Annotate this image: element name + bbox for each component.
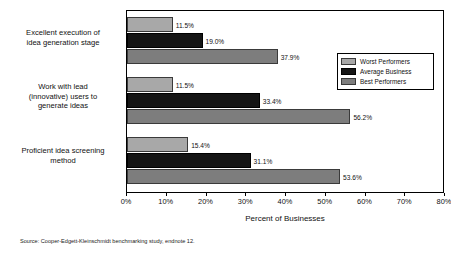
bar-row: 33.4% [127,93,443,108]
bar-worst[interactable] [127,17,173,32]
bar-best[interactable] [127,169,340,184]
category-label-0-line-1: idea generation stage [2,38,124,48]
x-tick-label: 0% [121,197,132,206]
x-tick-mark [245,193,246,196]
bar-average[interactable] [127,153,251,168]
source-note: Source: Cooper-Edgett-Kleinschmidt bench… [20,238,195,244]
x-tick-label: 20% [198,197,213,206]
category-label-1: Work with lead (innovative) users to gen… [2,82,124,111]
x-tick-label: 80% [437,197,451,206]
legend-item-best[interactable]: Best Performers [341,77,430,86]
x-tick-label: 10% [158,197,173,206]
bar-value-label: 19.0% [203,37,225,44]
bar-value-label: 56.2% [350,113,372,120]
category-label-0: Excellent execution of idea generation s… [2,28,124,47]
x-tick-mark [404,193,405,196]
legend-swatch-best [341,78,356,85]
chart-figure: Excellent execution of idea generation s… [0,0,451,261]
bar-average[interactable] [127,33,203,48]
x-tick-mark [365,193,366,196]
bar-best[interactable] [127,49,278,64]
legend-swatch-average [341,68,356,75]
x-tick-mark [325,193,326,196]
x-tick-mark [206,193,207,196]
legend-item-worst[interactable]: Worst Performers [341,57,430,66]
bar-value-label: 33.4% [260,97,282,104]
category-label-1-line-1: (innovative) users to [2,92,124,102]
x-tick-mark [126,193,127,196]
bar-value-label: 15.4% [188,141,210,148]
plot-area: 11.5%19.0%37.9%11.5%33.4%56.2%15.4%31.1%… [126,10,444,193]
bar-value-label: 11.5% [173,21,194,28]
bar-row: 19.0% [127,33,443,48]
category-label-2-line-1: method [2,156,124,166]
legend-swatch-worst [341,58,356,65]
bar-value-label: 11.5% [173,81,194,88]
x-tick-label: 70% [397,197,412,206]
bar-row: 53.6% [127,169,443,184]
category-label-1-line-0: Work with lead [2,82,124,92]
x-axis: 0%10%20%30%40%50%60%70%80% [126,193,444,213]
chart-legend: Worst PerformersAverage BusinessBest Per… [337,53,434,90]
legend-label: Worst Performers [360,58,410,65]
category-axis-labels: Excellent execution of idea generation s… [2,10,124,193]
x-tick-mark [285,193,286,196]
bar-row: 15.4% [127,137,443,152]
bar-worst[interactable] [127,137,188,152]
x-tick-label: 30% [238,197,253,206]
bar-value-label: 37.9% [278,53,300,60]
x-tick-label: 60% [357,197,372,206]
bar-average[interactable] [127,93,260,108]
legend-item-average[interactable]: Average Business [341,67,430,76]
bars-layer: 11.5%19.0%37.9%11.5%33.4%56.2%15.4%31.1%… [127,11,443,192]
bar-row: 31.1% [127,153,443,168]
category-label-1-line-2: generate ideas [2,101,124,111]
bar-group: 15.4%31.1%53.6% [127,137,443,184]
bar-row: 56.2% [127,109,443,124]
bar-row: 11.5% [127,17,443,32]
legend-label: Average Business [360,68,411,75]
legend-label: Best Performers [360,78,406,85]
bar-worst[interactable] [127,77,173,92]
x-tick-mark [166,193,167,196]
bar-value-label: 53.6% [340,173,362,180]
x-tick-label: 50% [317,197,332,206]
x-axis-title: Percent of Businesses [126,214,444,223]
category-label-2: Proficient idea screening method [2,146,124,165]
x-tick-mark [444,193,445,196]
category-label-2-line-0: Proficient idea screening [2,146,124,156]
bar-best[interactable] [127,109,350,124]
bar-value-label: 31.1% [251,157,273,164]
x-tick-label: 40% [278,197,293,206]
category-label-0-line-0: Excellent execution of [2,28,124,38]
